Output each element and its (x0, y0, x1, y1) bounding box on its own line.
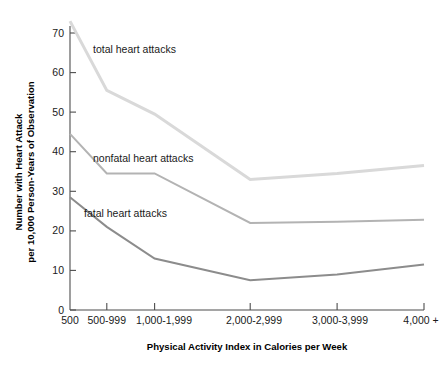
x-axis-title: Physical Activity Index in Calories per … (147, 341, 348, 352)
y-tick-label-30: 30 (52, 185, 64, 197)
x-axis-ticks (107, 303, 424, 310)
y-axis-title-line2: per 10,000 Person-Years of Observation (25, 81, 36, 262)
x-tick-label-500: 500 (61, 314, 79, 326)
x-axis-tick-labels: 500 500-999 1,000-1,999 2,000-2,999 3,00… (61, 314, 438, 326)
y-tick-label-60: 60 (52, 66, 64, 78)
x-tick-label-4000-plus: 4,000 + (403, 314, 438, 326)
x-tick-label-1000-1999: 1,000-1,999 (136, 314, 192, 326)
x-tick-label-500-999: 500-999 (88, 314, 127, 326)
x-tick-label-2000-2999: 2,000-2,999 (226, 314, 282, 326)
y-tick-label-70: 70 (52, 27, 64, 39)
y-tick-label-40: 40 (52, 145, 64, 157)
series-label-fatal-heart-attacks: fatal heart attacks (84, 207, 167, 219)
x-tick-label-3000-3999: 3,000-3,999 (312, 314, 368, 326)
series-label-total-heart-attacks: total heart attacks (93, 43, 176, 55)
y-tick-label-10: 10 (52, 264, 64, 276)
heart-attack-line-chart: Number with Heart Attack per 10,000 Pers… (0, 0, 448, 369)
chart-svg: Number with Heart Attack per 10,000 Pers… (0, 0, 448, 369)
y-axis-title-line1: Number with Heart Attack (13, 113, 24, 231)
y-tick-label-20: 20 (52, 224, 64, 236)
y-axis-ticks: 0 10 20 30 40 50 60 70 (52, 27, 76, 316)
series-label-nonfatal-heart-attacks: nonfatal heart attacks (93, 152, 193, 164)
y-tick-label-50: 50 (52, 106, 64, 118)
y-axis-title-group: Number with Heart Attack per 10,000 Pers… (13, 81, 36, 262)
